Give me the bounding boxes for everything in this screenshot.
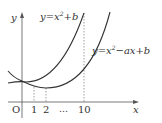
- graph-canvas: y x O 1 2 … 10 y=x2+b y=x2−ax+b: [0, 0, 162, 123]
- curve-1-label: y=x2+b: [39, 10, 78, 22]
- svg-text:y=x2+b: y=x2+b: [39, 10, 78, 22]
- y-axis-label: y: [10, 12, 17, 23]
- curve-2-label-base: y=x: [91, 45, 112, 56]
- curve-y-x2-plus-b: [8, 13, 84, 83]
- tick-label-ellipsis: …: [59, 104, 68, 114]
- tick-label-2: 2: [43, 104, 49, 115]
- curve-1-label-tail: +b: [64, 11, 79, 22]
- curve-1-label-base: y=x: [39, 11, 60, 22]
- curve-2-label: y=x2−ax+b: [91, 44, 150, 56]
- y-axis-arrow-icon: [20, 12, 24, 18]
- dashed-guides: [34, 13, 84, 102]
- svg-text:y=x2−ax+b: y=x2−ax+b: [91, 44, 150, 56]
- origin-label: O: [12, 104, 20, 115]
- curve-2-label-tail: −ax+b: [116, 45, 151, 56]
- tick-label-1: 1: [31, 104, 37, 115]
- tick-label-10: 10: [78, 104, 91, 115]
- function-graph-diagram: y x O 1 2 … 10 y=x2+b y=x2−ax+b: [0, 0, 162, 123]
- x-axis: [8, 100, 139, 104]
- x-axis-label: x: [133, 104, 139, 115]
